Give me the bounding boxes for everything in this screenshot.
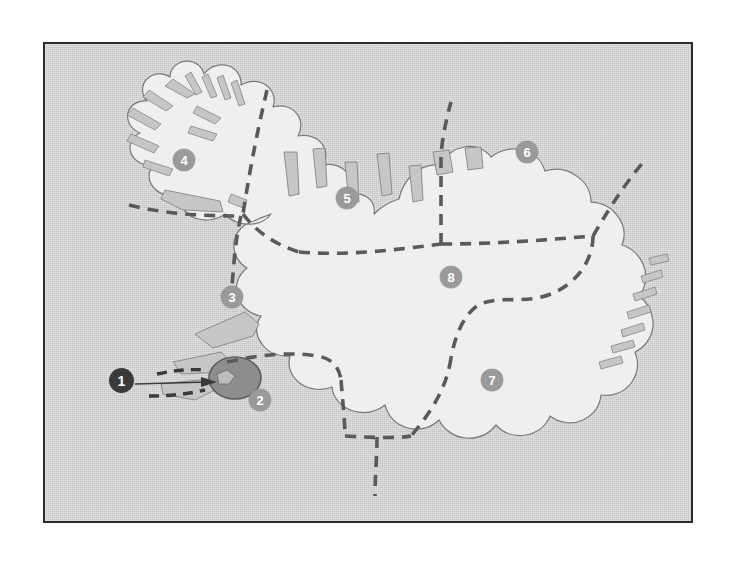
map-marker-4-label: 4 (180, 154, 187, 167)
map-marker-1[interactable]: 1 (109, 368, 134, 393)
map-marker-2[interactable]: 2 (249, 389, 271, 411)
iceland-map-svg (45, 44, 691, 521)
map-marker-6[interactable]: 6 (516, 141, 538, 163)
map-marker-1-label: 1 (118, 374, 126, 388)
map-marker-5-label: 5 (343, 192, 350, 205)
map-marker-3-label: 3 (228, 291, 235, 304)
map-marker-8-label: 8 (447, 271, 454, 284)
map-marker-3[interactable]: 3 (221, 286, 243, 308)
map-figure: 1 2 3 4 5 6 7 8 (0, 0, 734, 562)
map-marker-2-label: 2 (256, 394, 263, 407)
map-marker-5[interactable]: 5 (336, 187, 358, 209)
map-marker-7-label: 7 (488, 374, 495, 387)
map-marker-8[interactable]: 8 (440, 266, 462, 288)
boundary-south-spur (375, 437, 377, 496)
map-marker-7[interactable]: 7 (481, 369, 503, 391)
map-marker-4[interactable]: 4 (173, 149, 195, 171)
map-marker-6-label: 6 (523, 146, 530, 159)
map-frame: 1 2 3 4 5 6 7 8 (43, 42, 693, 523)
